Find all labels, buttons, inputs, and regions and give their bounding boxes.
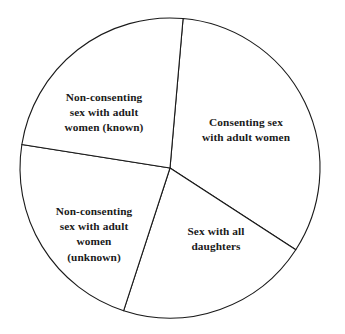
pie-chart-svg: [0, 0, 345, 334]
pie-slices: [20, 18, 320, 318]
pie-chart: Consenting sex with adult women Sex with…: [0, 0, 345, 334]
pie-slice-nonconsenting-known[interactable]: [22, 18, 183, 168]
